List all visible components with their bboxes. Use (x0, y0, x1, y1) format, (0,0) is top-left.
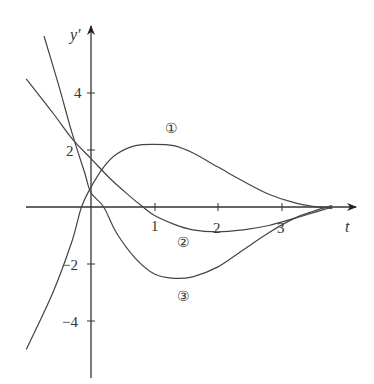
x-tick-label-2: 2 (213, 220, 221, 236)
curve-1-label: ① (165, 121, 178, 136)
y-tick-label-m2: −2 (62, 257, 78, 273)
curve-3-label: ③ (177, 289, 190, 304)
y-tick-label-m4: −4 (62, 314, 78, 330)
y-tick-label-2: 2 (66, 143, 74, 159)
chart-canvas: 1 2 3 4 2 −2 −4 y′ t ① ② ③ (0, 0, 374, 384)
curve-2-label: ② (177, 235, 190, 250)
x-axis-label: t (345, 218, 350, 235)
y-tick-label-4: 4 (74, 85, 82, 101)
x-tick-label-1: 1 (151, 218, 159, 234)
y-axis-label: y′ (68, 26, 81, 44)
